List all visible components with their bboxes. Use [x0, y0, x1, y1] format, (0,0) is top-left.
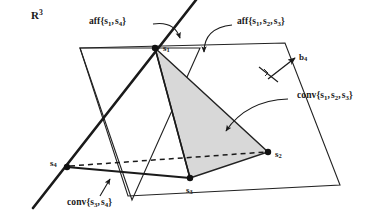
conv-s3s4-segment: [67, 167, 190, 178]
label-s4: s4: [50, 159, 57, 169]
label-aff-s1-s2-s3: aff{s1, s2, s3}: [237, 17, 285, 27]
b4-normal-vector-arrow: [268, 58, 295, 79]
vertex-s4: [64, 164, 70, 170]
vertex-s1: [152, 45, 158, 51]
label-conv-s3-s4: conv{s3, s4}: [67, 198, 112, 208]
leader-aff-s1s2s3: [204, 25, 232, 52]
vertex-s3: [187, 175, 193, 181]
label-aff-s1-s4: aff{s1, s4}: [89, 17, 126, 27]
label-b4-normal: b4: [299, 53, 307, 63]
label-s1: s1: [163, 44, 170, 54]
leader-conv-s3s4: [100, 179, 110, 196]
vertex-s2: [265, 149, 271, 155]
convex-hull-diagram: [0, 0, 370, 219]
label-s2: s2: [275, 150, 282, 160]
label-s3: s3: [186, 186, 193, 196]
label-conv-s1-s2-s3: conv{s1, s2, s3}: [297, 91, 353, 101]
perpendicular-tick-icon: [259, 67, 278, 82]
ambient-space-label: R3: [31, 9, 43, 21]
